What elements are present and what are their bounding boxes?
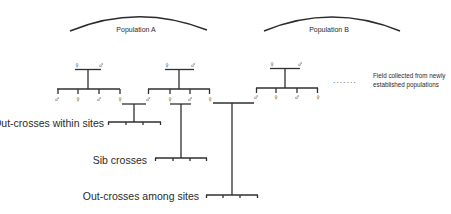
family-3: ♀ ♂ ♂ ♀ ♂ ♀ <box>253 60 321 102</box>
female-icon: ♀ <box>273 93 279 102</box>
male-icon: ♂ <box>145 95 151 104</box>
cross-sib: Sib crosses <box>93 104 207 166</box>
population-a-label: Population A <box>116 26 156 34</box>
male-icon: ♂ <box>54 95 60 104</box>
cross-within-sites: Out-crosses within sites <box>0 104 161 129</box>
crossing-design-diagram: Population A Population B ♀ ♂ ♂ ♀ ♂ ♀ ♀ … <box>0 0 451 214</box>
note-line-2: established populations <box>373 81 439 89</box>
female-icon: ♀ <box>164 61 170 70</box>
male-icon: ♂ <box>98 61 104 70</box>
female-icon: ♀ <box>117 95 123 104</box>
male-icon: ♂ <box>190 61 196 70</box>
cross-within-sites-label: Out-crosses within sites <box>0 117 104 129</box>
population-b-label: Population B <box>309 26 349 34</box>
male-icon: ♂ <box>187 95 193 104</box>
male-icon: ♂ <box>297 60 303 69</box>
more-populations-ellipsis: ....... <box>333 76 357 85</box>
family-2: ♀ ♂ ♂ ♀ ♂ ♀ <box>145 61 213 104</box>
female-icon: ♀ <box>74 61 80 70</box>
cross-among-sites: Out-crosses among sites <box>83 103 258 202</box>
cross-sib-label: Sib crosses <box>93 154 147 166</box>
female-icon: ♀ <box>167 95 173 104</box>
female-icon: ♀ <box>269 60 275 69</box>
female-icon: ♀ <box>207 95 213 104</box>
male-icon: ♂ <box>294 93 300 102</box>
female-icon: ♀ <box>75 95 81 104</box>
note-line-1: Field collected from newly <box>373 72 446 80</box>
male-icon: ♂ <box>253 93 259 102</box>
cross-among-sites-label: Out-crosses among sites <box>83 190 199 202</box>
male-icon: ♂ <box>96 95 102 104</box>
female-icon: ♀ <box>315 93 321 102</box>
family-1: ♀ ♂ ♂ ♀ ♂ ♀ <box>54 61 123 104</box>
